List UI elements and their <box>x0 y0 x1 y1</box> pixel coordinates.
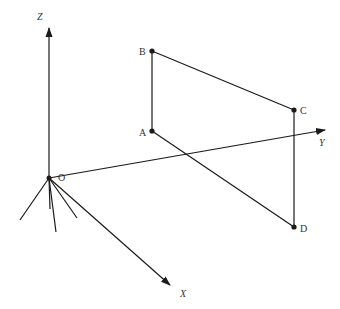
x-axis <box>49 178 170 285</box>
diagram-canvas: ZYXOABCD <box>0 0 340 309</box>
edge-AD <box>152 131 294 227</box>
support-line <box>20 178 49 220</box>
vertices <box>47 48 297 229</box>
point-C-label: C <box>300 105 307 116</box>
origin-label: O <box>58 172 65 183</box>
point-D-label: D <box>300 223 307 234</box>
origin-point <box>47 176 52 181</box>
point-D <box>291 224 296 229</box>
edge-BC <box>152 51 294 110</box>
point-B <box>149 48 154 53</box>
axes <box>49 28 325 285</box>
point-C <box>291 107 296 112</box>
point-B-label: B <box>139 46 146 57</box>
z-axis-label: Z <box>37 11 43 22</box>
point-A <box>149 128 154 133</box>
point-A-label: A <box>139 127 147 138</box>
y-axis-label: Y <box>319 137 326 148</box>
coordinate-diagram: ZYXOABCD <box>0 0 340 309</box>
x-axis-label: X <box>179 288 187 299</box>
origin-support-lines <box>20 178 77 232</box>
